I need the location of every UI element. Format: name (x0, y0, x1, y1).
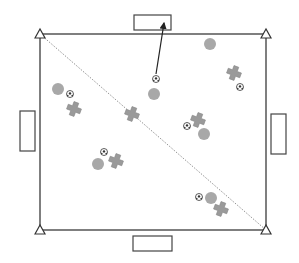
diagonal-line (40, 34, 266, 230)
goals (20, 15, 286, 251)
soccer-ball-icon (184, 123, 191, 130)
goal-bottom (133, 236, 172, 251)
drill-diagram (0, 0, 299, 263)
field-canvas (0, 0, 299, 263)
soccer-ball-icon (101, 149, 108, 156)
soccer-ball-icon (237, 84, 244, 91)
defender-cross-icon (123, 105, 141, 123)
pass-arrows (156, 23, 164, 74)
player-circle-icon (205, 192, 217, 204)
defenders (65, 64, 243, 218)
diagonal-dashed-line (40, 34, 266, 230)
soccer-ball-icon (67, 91, 74, 98)
pass-arrow (156, 23, 164, 74)
defender-cross-icon (65, 100, 83, 118)
player-circle-icon (148, 88, 160, 100)
defender-cross-icon (212, 200, 230, 218)
attackers (52, 38, 217, 204)
soccer-ball-icon (153, 76, 160, 83)
player-circle-icon (52, 83, 64, 95)
player-circle-icon (198, 128, 210, 140)
goal-right (271, 114, 286, 154)
player-circle-icon (92, 158, 104, 170)
player-circle-icon (204, 38, 216, 50)
soccer-ball-icon (196, 194, 203, 201)
defender-cross-icon (107, 152, 125, 170)
defender-cross-icon (225, 64, 243, 82)
defender-cross-icon (189, 111, 207, 129)
goal-top (134, 15, 171, 30)
goal-left (20, 111, 35, 151)
